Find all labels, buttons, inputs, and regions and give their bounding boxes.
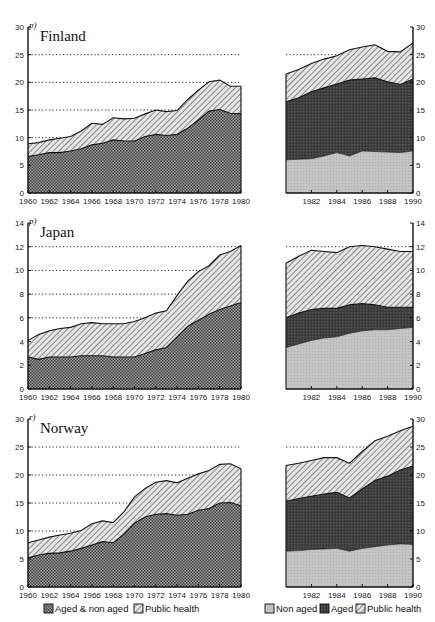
x-tick-label: 1978: [211, 393, 229, 402]
legend-label: Aged & non aged: [55, 603, 128, 614]
y-tick-label-right: 15: [416, 499, 425, 508]
x-tick-label: 1978: [211, 197, 229, 206]
y-tick-label-left: 20: [15, 471, 24, 480]
y-tick-label-left: 14: [15, 219, 24, 228]
x-tick-label: 1974: [168, 197, 186, 206]
y-tick-label-left: 4: [20, 338, 25, 347]
y-tick-label-left: 5: [20, 555, 25, 564]
chart-finland: 0055101015152020252530301960196219641966…: [15, 20, 425, 206]
y-tick-label-right: 10: [416, 527, 425, 536]
x-tick-label: 1960: [19, 197, 37, 206]
y-tick-label-right: 2: [416, 361, 421, 370]
x-tick-label: 1970: [126, 591, 144, 600]
y-tick-label-left: 10: [15, 134, 24, 143]
y-tick-label-left: 6: [20, 314, 25, 323]
x-tick-label: 1976: [190, 591, 208, 600]
y-tick-label-right: 10: [416, 134, 425, 143]
x-tick-label: 1966: [83, 393, 101, 402]
x-tick-label: 1974: [168, 393, 186, 402]
legend-item: Aged: [320, 603, 353, 614]
x-tick-label: 1964: [62, 197, 80, 206]
y-tick-label-left: 15: [15, 106, 24, 115]
x-tick-label: 1990: [404, 393, 422, 402]
legend-label: Public health: [367, 603, 421, 614]
x-tick-label: 1990: [404, 197, 422, 206]
y-tick-label-right: 20: [416, 78, 425, 87]
y-tick-label-left: 5: [20, 161, 25, 170]
x-tick-label: 1964: [62, 591, 80, 600]
y-tick-label-right: 25: [416, 51, 425, 60]
y-tick-label-left: 30: [15, 415, 24, 424]
x-tick-label: 1984: [328, 393, 346, 402]
x-tick-label: 1972: [147, 591, 165, 600]
x-tick-label: 1970: [126, 197, 144, 206]
legend-label: Aged: [331, 603, 353, 614]
y-tick-label-left: 30: [15, 23, 24, 32]
country-title: Norway: [40, 420, 89, 436]
legend-item: Non aged: [265, 603, 317, 614]
y-tick-label-left: 20: [15, 78, 24, 87]
y-tick-label-right: 10: [416, 266, 425, 275]
x-tick-label: 1962: [40, 197, 58, 206]
chart-norway: 0055101015152020252530301960196219641966…: [15, 412, 425, 600]
y-tick-label-right: 5: [416, 161, 421, 170]
y-tick-label-left: 12: [15, 243, 24, 252]
x-tick-label: 1968: [104, 591, 122, 600]
x-tick-label: 1988: [379, 591, 397, 600]
y-tick-label-left: 10: [15, 266, 24, 275]
x-tick-label: 1978: [211, 591, 229, 600]
x-tick-label: 1968: [104, 393, 122, 402]
x-tick-label: 1962: [40, 393, 58, 402]
x-tick-label: 1972: [147, 393, 165, 402]
x-tick-label: 1982: [303, 393, 321, 402]
legend-swatch-icon: [44, 604, 53, 613]
chart-note: r): [29, 412, 36, 422]
x-tick-label: 1988: [379, 393, 397, 402]
x-tick-label: 1966: [83, 591, 101, 600]
x-tick-label: 1970: [126, 393, 144, 402]
y-tick-label-right: 15: [416, 106, 425, 115]
country-title: Japan: [40, 224, 75, 240]
legend-item: Public health: [134, 603, 199, 614]
x-tick-label: 1986: [353, 197, 371, 206]
legend-swatch-icon: [265, 604, 274, 613]
legend-label: Non aged: [276, 603, 317, 614]
x-tick-label: 1986: [353, 591, 371, 600]
y-tick-label-left: 10: [15, 527, 24, 536]
legend-swatch-icon: [356, 604, 365, 613]
x-tick-label: 1960: [19, 591, 37, 600]
chart-japan: 0022446688101012121414196019621964196619…: [15, 216, 425, 402]
y-tick-label-right: 5: [416, 555, 421, 564]
y-tick-label-right: 25: [416, 443, 425, 452]
legend-swatch-icon: [134, 604, 143, 613]
y-tick-label-right: 30: [416, 415, 425, 424]
y-tick-label-right: 8: [416, 290, 421, 299]
legend-item: Aged & non aged: [44, 603, 128, 614]
x-tick-label: 1980: [232, 393, 250, 402]
x-tick-label: 1980: [232, 197, 250, 206]
x-tick-label: 1962: [40, 591, 58, 600]
x-tick-label: 1982: [303, 197, 321, 206]
y-tick-label-right: 30: [416, 23, 425, 32]
y-tick-label-left: 15: [15, 499, 24, 508]
legend-swatch-icon: [320, 604, 329, 613]
x-tick-label: 1984: [328, 591, 346, 600]
x-tick-label: 1976: [190, 197, 208, 206]
chart-note: p): [28, 20, 37, 30]
y-tick-label-left: 25: [15, 51, 24, 60]
y-tick-label-left: 8: [20, 290, 25, 299]
y-tick-label-right: 20: [416, 471, 425, 480]
y-tick-label-left: 2: [20, 361, 25, 370]
y-tick-label-right: 14: [416, 219, 425, 228]
x-tick-label: 1990: [404, 591, 422, 600]
y-tick-label-right: 12: [416, 243, 425, 252]
legend-label: Public health: [145, 603, 199, 614]
chart-note: p): [28, 216, 37, 226]
x-tick-label: 1966: [83, 197, 101, 206]
x-tick-label: 1972: [147, 197, 165, 206]
x-tick-label: 1980: [232, 591, 250, 600]
y-tick-label-right: 4: [416, 338, 421, 347]
x-tick-label: 1984: [328, 197, 346, 206]
x-tick-label: 1964: [62, 393, 80, 402]
y-tick-label-left: 25: [15, 443, 24, 452]
